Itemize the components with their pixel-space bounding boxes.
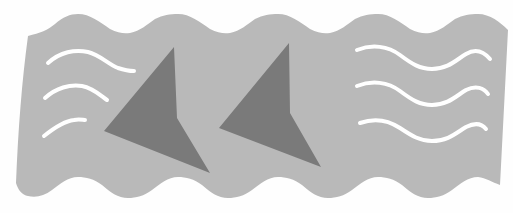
shark-waves-illustration	[0, 0, 513, 213]
